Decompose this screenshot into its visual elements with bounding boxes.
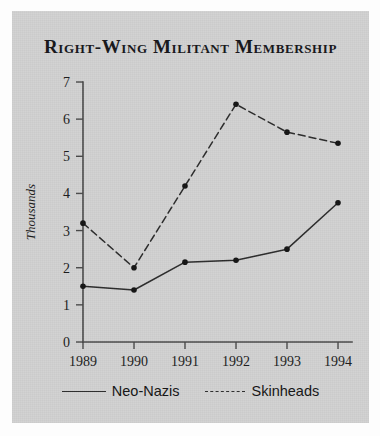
legend-label: Skinheads (251, 383, 319, 399)
data-point (233, 101, 239, 107)
data-point (131, 287, 137, 293)
y-tick-label: 0 (63, 335, 70, 350)
data-point (182, 183, 188, 189)
y-axis: 01234567 (63, 75, 83, 350)
y-tick-label: 6 (63, 112, 70, 127)
y-tick-label: 2 (63, 261, 70, 276)
x-tick-label: 1993 (273, 354, 301, 369)
y-tick-label: 4 (63, 186, 70, 201)
y-axis-title: Thousands (23, 184, 38, 240)
x-tick-label: 1990 (120, 354, 148, 369)
x-tick-label: 1992 (222, 354, 250, 369)
legend-swatch-dashed-line-icon (205, 391, 245, 392)
y-tick-label: 7 (63, 75, 70, 90)
data-series (80, 101, 341, 292)
y-tick-label: 5 (63, 149, 70, 164)
data-point (233, 257, 239, 263)
data-point (335, 200, 341, 206)
data-point (335, 140, 341, 146)
legend-swatch-solid-line-icon (62, 391, 106, 392)
chart-legend: Neo-NazisSkinheads (12, 383, 369, 399)
data-point (284, 246, 290, 252)
data-point (131, 265, 137, 271)
y-tick-label: 3 (63, 224, 70, 239)
x-tick-label: 1991 (171, 354, 199, 369)
data-point (80, 220, 86, 226)
y-axis-label: Thousands (23, 184, 38, 240)
legend-label: Neo-Nazis (112, 383, 180, 399)
x-tick-label: 1989 (69, 354, 97, 369)
series-line-skinheads (83, 104, 338, 267)
data-point (284, 129, 290, 135)
legend-entry: Skinheads (205, 383, 319, 399)
chart-panel: Right-Wing Militant Membership 01234567 … (12, 11, 369, 423)
chart-figure: Right-Wing Militant Membership 01234567 … (0, 0, 380, 436)
y-tick-label: 1 (63, 298, 70, 313)
data-point (80, 283, 86, 289)
legend-entry: Neo-Nazis (62, 383, 180, 399)
x-axis: 198919901991199219931994 (69, 342, 352, 369)
plot-area: 01234567 198919901991199219931994 Thousa… (12, 11, 369, 423)
x-tick-label: 1994 (324, 354, 352, 369)
data-point (182, 259, 188, 265)
series-line-neo-nazis (83, 203, 338, 290)
